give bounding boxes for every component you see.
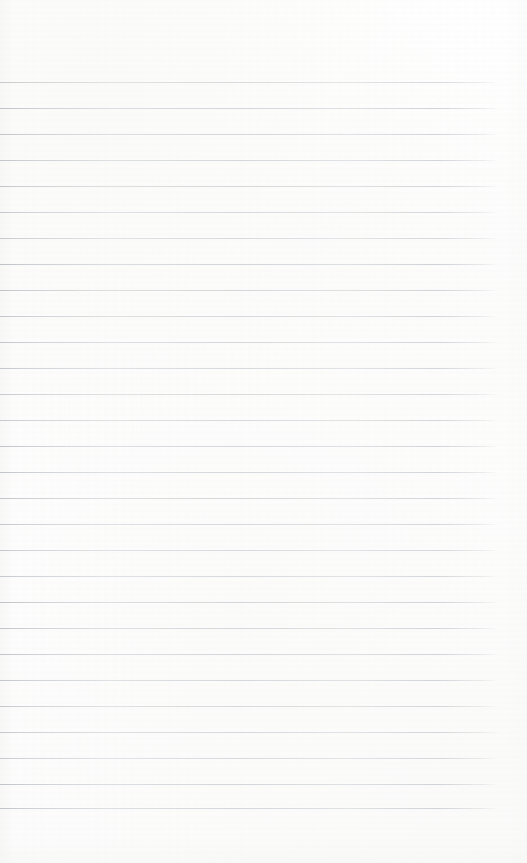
- notebook-page: [0, 0, 527, 863]
- writing-area[interactable]: [0, 82, 497, 809]
